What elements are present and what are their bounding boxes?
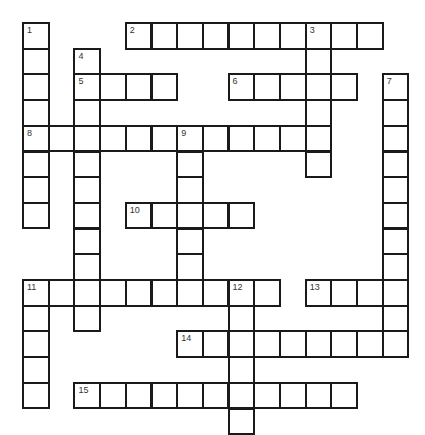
crossword-cell[interactable] <box>279 125 307 153</box>
crossword-cell[interactable] <box>228 125 256 153</box>
crossword-cell[interactable]: 14 <box>176 330 204 358</box>
crossword-cell[interactable] <box>176 202 204 230</box>
crossword-cell[interactable] <box>279 330 307 358</box>
crossword-cell[interactable] <box>176 253 204 281</box>
crossword-cell[interactable] <box>125 382 153 410</box>
crossword-cell[interactable] <box>253 382 281 410</box>
crossword-cell[interactable] <box>99 73 127 101</box>
crossword-cell[interactable] <box>48 125 76 153</box>
crossword-cell[interactable] <box>382 253 410 281</box>
crossword-cell[interactable] <box>151 22 179 50</box>
crossword-cell[interactable] <box>176 228 204 256</box>
crossword-cell[interactable] <box>228 202 256 230</box>
crossword-cell[interactable] <box>382 125 410 153</box>
crossword-cell[interactable] <box>22 48 50 76</box>
crossword-cell[interactable] <box>22 73 50 101</box>
crossword-cell[interactable] <box>382 228 410 256</box>
crossword-cell[interactable]: 7 <box>382 73 410 101</box>
crossword-cell[interactable] <box>73 151 101 179</box>
crossword-cell[interactable]: 4 <box>73 48 101 76</box>
crossword-cell[interactable] <box>22 99 50 127</box>
crossword-cell[interactable] <box>125 125 153 153</box>
crossword-cell[interactable] <box>22 330 50 358</box>
crossword-cell[interactable] <box>151 202 179 230</box>
crossword-cell[interactable]: 6 <box>228 73 256 101</box>
crossword-cell[interactable] <box>202 125 230 153</box>
crossword-cell[interactable]: 9 <box>176 125 204 153</box>
crossword-cell[interactable] <box>176 382 204 410</box>
crossword-cell[interactable] <box>356 22 384 50</box>
crossword-cell[interactable] <box>253 125 281 153</box>
crossword-cell[interactable]: 12 <box>228 279 256 307</box>
crossword-cell[interactable] <box>382 330 410 358</box>
crossword-cell[interactable] <box>305 48 333 76</box>
crossword-cell[interactable]: 3 <box>305 22 333 50</box>
crossword-cell[interactable] <box>228 22 256 50</box>
crossword-cell[interactable] <box>382 176 410 204</box>
crossword-cell[interactable]: 1 <box>22 22 50 50</box>
crossword-cell[interactable]: 15 <box>73 382 101 410</box>
crossword-cell[interactable] <box>125 73 153 101</box>
crossword-cell[interactable] <box>228 305 256 333</box>
crossword-cell[interactable] <box>73 305 101 333</box>
crossword-cell[interactable] <box>73 253 101 281</box>
crossword-cell[interactable] <box>253 279 281 307</box>
crossword-cell[interactable] <box>202 22 230 50</box>
crossword-cell[interactable] <box>22 202 50 230</box>
crossword-cell[interactable] <box>330 73 358 101</box>
crossword-cell[interactable] <box>356 330 384 358</box>
crossword-cell[interactable] <box>253 73 281 101</box>
crossword-cell[interactable] <box>151 382 179 410</box>
crossword-cell[interactable] <box>151 73 179 101</box>
crossword-cell[interactable] <box>330 382 358 410</box>
crossword-cell[interactable] <box>151 125 179 153</box>
crossword-cell[interactable] <box>330 22 358 50</box>
crossword-cell[interactable] <box>22 382 50 410</box>
crossword-cell[interactable] <box>228 330 256 358</box>
crossword-cell[interactable] <box>99 279 127 307</box>
crossword-cell[interactable]: 5 <box>73 73 101 101</box>
crossword-cell[interactable] <box>176 151 204 179</box>
crossword-cell[interactable] <box>73 125 101 153</box>
crossword-cell[interactable] <box>73 279 101 307</box>
crossword-cell[interactable] <box>228 382 256 410</box>
crossword-cell[interactable] <box>99 125 127 153</box>
crossword-cell[interactable] <box>253 22 281 50</box>
crossword-cell[interactable] <box>202 279 230 307</box>
crossword-cell[interactable] <box>305 330 333 358</box>
crossword-cell[interactable] <box>305 151 333 179</box>
crossword-cell[interactable] <box>99 382 127 410</box>
crossword-cell[interactable] <box>202 202 230 230</box>
crossword-cell[interactable]: 8 <box>22 125 50 153</box>
crossword-cell[interactable] <box>330 279 358 307</box>
crossword-cell[interactable] <box>22 356 50 384</box>
crossword-cell[interactable] <box>202 382 230 410</box>
crossword-cell[interactable]: 10 <box>125 202 153 230</box>
crossword-cell[interactable] <box>305 125 333 153</box>
crossword-cell[interactable] <box>73 176 101 204</box>
crossword-cell[interactable] <box>22 305 50 333</box>
crossword-cell[interactable] <box>382 305 410 333</box>
crossword-cell[interactable] <box>73 99 101 127</box>
crossword-cell[interactable] <box>382 279 410 307</box>
crossword-cell[interactable] <box>48 279 76 307</box>
crossword-cell[interactable] <box>125 279 153 307</box>
crossword-cell[interactable] <box>253 330 281 358</box>
crossword-cell[interactable] <box>382 99 410 127</box>
crossword-cell[interactable] <box>22 151 50 179</box>
crossword-cell[interactable] <box>22 176 50 204</box>
crossword-cell[interactable]: 13 <box>305 279 333 307</box>
crossword-cell[interactable] <box>176 279 204 307</box>
crossword-cell[interactable] <box>356 279 384 307</box>
crossword-cell[interactable] <box>228 408 256 435</box>
crossword-cell[interactable] <box>305 99 333 127</box>
crossword-cell[interactable] <box>73 202 101 230</box>
crossword-cell[interactable] <box>305 382 333 410</box>
crossword-cell[interactable] <box>228 356 256 384</box>
crossword-cell[interactable] <box>202 330 230 358</box>
crossword-cell[interactable]: 11 <box>22 279 50 307</box>
crossword-cell[interactable] <box>279 22 307 50</box>
crossword-cell[interactable] <box>330 330 358 358</box>
crossword-cell[interactable] <box>279 73 307 101</box>
crossword-cell[interactable] <box>176 176 204 204</box>
